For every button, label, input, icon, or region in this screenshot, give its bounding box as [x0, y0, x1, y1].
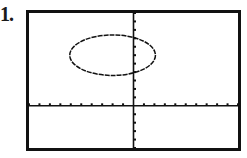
y-tick: [134, 122, 137, 124]
calculator-graph-screen: [0, 0, 247, 158]
y-tick: [134, 130, 137, 132]
x-tick: [153, 103, 155, 106]
x-tick: [122, 103, 124, 106]
x-tick: [59, 103, 61, 106]
y-tick: [134, 46, 137, 48]
y-tick: [134, 54, 137, 56]
y-tick: [134, 147, 137, 149]
y-tick: [134, 113, 137, 115]
x-tick: [185, 103, 187, 106]
y-tick: [134, 63, 137, 65]
x-tick: [80, 103, 82, 106]
y-tick: [134, 80, 137, 82]
x-tick: [49, 103, 51, 106]
y-tick: [134, 20, 137, 22]
x-tick: [206, 103, 208, 106]
x-tick: [237, 103, 239, 106]
y-tick: [134, 12, 137, 14]
y-tick: [134, 96, 137, 98]
x-tick: [164, 103, 166, 106]
x-tick: [216, 103, 218, 106]
y-tick: [134, 139, 137, 141]
x-tick: [91, 103, 93, 106]
x-tick: [28, 103, 30, 106]
x-tick: [38, 103, 40, 106]
x-tick: [101, 103, 103, 106]
x-tick: [227, 103, 229, 106]
x-tick: [143, 103, 145, 106]
x-tick: [70, 103, 72, 106]
x-tick: [112, 103, 114, 106]
y-tick: [134, 88, 137, 90]
x-tick: [195, 103, 197, 106]
x-tick: [174, 103, 176, 106]
y-tick: [134, 29, 137, 31]
